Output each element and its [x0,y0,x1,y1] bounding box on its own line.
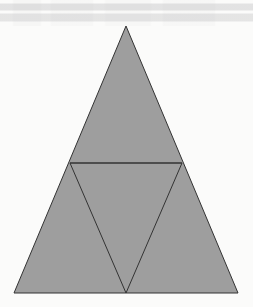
geometry-diagram [0,0,253,307]
figure-canvas [0,0,253,307]
